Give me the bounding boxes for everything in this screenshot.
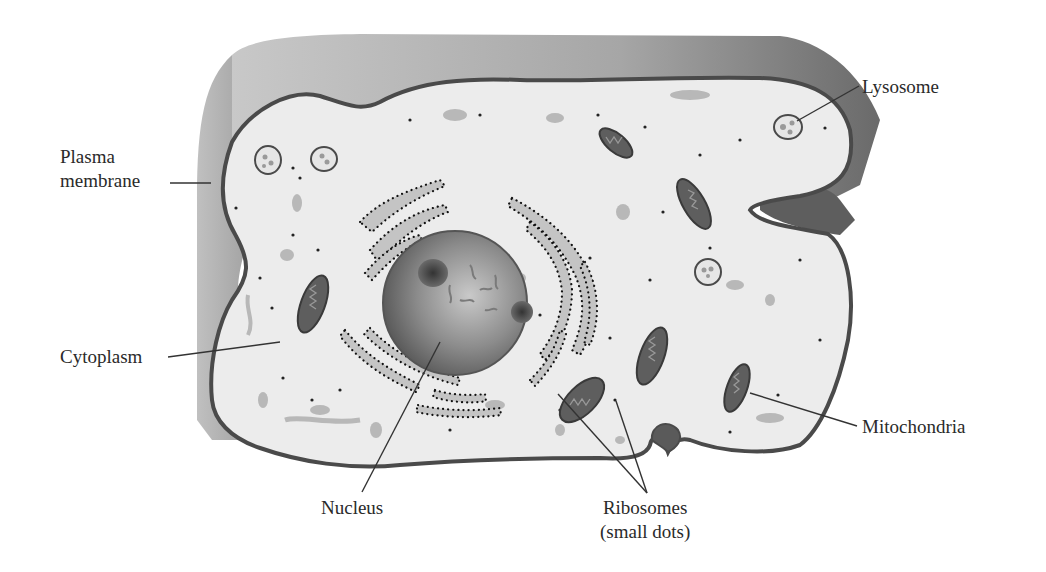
label-ribosomes: Ribosomes (small dots): [600, 496, 690, 544]
label-lysosome: Lysosome: [862, 75, 939, 99]
label-plasma-membrane-line2: membrane: [60, 169, 140, 193]
lysosome: [774, 115, 802, 139]
label-plasma-membrane-line1: Plasma: [60, 145, 140, 169]
label-ribosomes-line2: (small dots): [600, 520, 690, 544]
nucleolus: [511, 301, 533, 323]
label-plasma-membrane: Plasma membrane: [60, 145, 140, 193]
lysosome: [255, 146, 281, 174]
membrane-bump: [652, 424, 680, 452]
lysosome: [695, 259, 721, 285]
label-cytoplasm: Cytoplasm: [60, 345, 142, 369]
nucleolus: [418, 259, 448, 287]
lysosome: [311, 147, 337, 171]
label-mitochondria: Mitochondria: [862, 415, 965, 439]
label-nucleus: Nucleus: [321, 496, 383, 520]
label-ribosomes-line1: Ribosomes: [600, 496, 690, 520]
plasma-membrane: [211, 78, 851, 467]
